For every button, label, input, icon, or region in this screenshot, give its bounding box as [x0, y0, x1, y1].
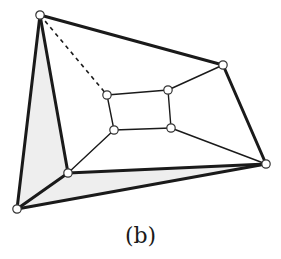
planar-graph-diagram — [0, 0, 281, 259]
node-e — [64, 169, 72, 177]
node-p4 — [167, 124, 175, 132]
edge-b-c — [223, 65, 266, 164]
node-b — [219, 61, 227, 69]
edge-p3-e — [68, 130, 114, 173]
edge-p2-p4 — [168, 90, 171, 128]
node-d — [13, 205, 21, 213]
edge-p1-p3 — [107, 95, 114, 130]
node-p1 — [103, 91, 111, 99]
figure-caption: (b) — [0, 223, 281, 249]
node-p3 — [110, 126, 118, 134]
edge-a-b — [40, 15, 223, 65]
edge-p2-b — [168, 65, 223, 90]
edge-p1-p2 — [107, 90, 168, 95]
node-a — [36, 11, 44, 19]
node-c — [262, 160, 270, 168]
figure-canvas: (b) — [0, 0, 281, 259]
node-p2 — [164, 86, 172, 94]
edge-p3-p4 — [114, 128, 171, 130]
